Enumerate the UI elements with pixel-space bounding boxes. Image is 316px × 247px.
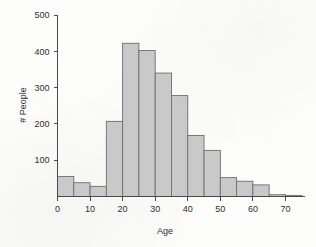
x-tick-label: 70 [280,204,290,214]
histogram-bar [220,178,236,197]
x-tick-label: 0 [55,204,60,214]
x-tick-label: 40 [183,204,193,214]
histogram-bar [155,73,171,196]
y-tick-label: 200 [34,119,49,129]
y-axis-title: # People [18,87,28,123]
x-axis-ticks: 010203040506070 [55,197,291,214]
x-tick-label: 30 [150,204,160,214]
x-tick-label: 60 [248,204,258,214]
bars-group [58,43,302,196]
y-tick-label: 500 [34,10,49,20]
histogram-bar [90,186,106,196]
histogram-bar [74,183,90,197]
y-tick-label: 400 [34,47,49,57]
histogram-figure: 100200300400500 010203040506070 Age # Pe… [0,0,316,247]
x-tick-label: 20 [118,204,128,214]
histogram-bar [106,121,122,196]
histogram-bar [171,96,187,197]
x-tick-label: 10 [85,204,95,214]
y-tick-label: 100 [34,155,49,165]
histogram-bar [123,43,139,196]
histogram-bar [58,177,74,197]
x-axis-title: Age [157,226,173,236]
histogram-bar [139,51,155,197]
histogram-bar [237,181,253,196]
y-tick-label: 300 [34,83,49,93]
age-histogram-chart: 100200300400500 010203040506070 Age # Pe… [0,0,316,247]
histogram-bar [188,136,204,197]
histogram-bar [253,185,269,197]
histogram-bar [204,150,220,196]
y-axis-ticks: 100200300400500 [34,10,57,165]
x-tick-label: 50 [215,204,225,214]
